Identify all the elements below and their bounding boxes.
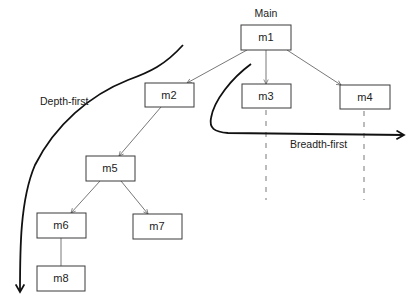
- edge-m2-m5: [119, 107, 161, 156]
- node-m7-label: m7: [149, 220, 164, 232]
- edge-m1-m4: [287, 50, 341, 85]
- node-m2: m2: [145, 83, 194, 107]
- node-m2-label: m2: [161, 89, 176, 101]
- node-m5-label: m5: [102, 162, 117, 174]
- node-m5: m5: [86, 156, 135, 181]
- node-m8: m8: [37, 266, 85, 291]
- edge-m1-m2: [187, 50, 247, 83]
- node-m4-label: m4: [357, 91, 372, 103]
- edge-m5-m6: [71, 181, 100, 213]
- node-m7: m7: [133, 214, 182, 239]
- node-m3: m3: [242, 84, 291, 108]
- breadth-first-label: Breadth-first: [290, 138, 347, 150]
- node-m1-label: m1: [258, 31, 273, 43]
- main-title: Main: [255, 7, 278, 19]
- depth-first-label: Depth-first: [40, 95, 89, 107]
- edge-m5-m7: [121, 181, 148, 214]
- node-m8-label: m8: [53, 272, 68, 284]
- tree-traversal-diagram: Main Depth-first Breadth-first m1 m2 m3 …: [0, 0, 416, 305]
- node-m4: m4: [340, 85, 390, 109]
- node-m6: m6: [37, 213, 86, 238]
- node-m1: m1: [241, 25, 291, 50]
- node-m3-label: m3: [258, 90, 273, 102]
- node-m6-label: m6: [53, 219, 68, 231]
